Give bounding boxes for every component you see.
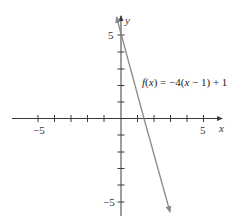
function-graph: −5 5 5 −5 x y f(x) = −4(x − 1) + 1 [0,0,237,221]
x-tick-label-max: 5 [200,124,206,136]
x-tick-label-min: −5 [33,124,45,136]
function-label: f(x) = −4(x − 1) + 1 [142,76,227,89]
function-line [144,119,170,213]
y-axis-label: y [124,14,130,26]
x-axis-label: x [218,122,224,134]
y-tick-label-min: −5 [103,196,115,208]
y-tick-label-max: 5 [108,29,114,41]
